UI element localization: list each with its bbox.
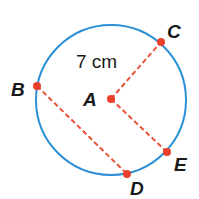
- label-E: E: [174, 154, 188, 175]
- point-C: [157, 38, 165, 46]
- label-B: B: [11, 79, 25, 100]
- point-B: [33, 82, 41, 90]
- label-A: A: [82, 89, 97, 110]
- radius-label: 7 cm: [76, 51, 117, 72]
- point-E: [163, 148, 171, 156]
- segment-AE: [111, 99, 167, 152]
- label-D: D: [130, 178, 144, 199]
- label-C: C: [167, 21, 181, 42]
- point-A: [107, 95, 115, 103]
- circle-diagram: 7 cm A B C D E: [0, 0, 199, 199]
- segment-AC: [111, 42, 161, 99]
- point-D: [123, 170, 131, 178]
